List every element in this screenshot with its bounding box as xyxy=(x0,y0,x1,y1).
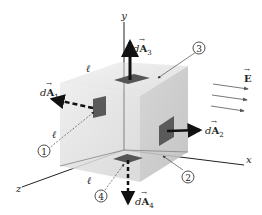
diagram-svg: 1 3 2 4 y x z ℓ ℓ ℓ dA3 → dA1 → dA2 → dA… xyxy=(0,0,262,215)
face-3-label: 3 xyxy=(196,44,202,54)
svg-text:→: → xyxy=(46,80,52,88)
x-axis-label: x xyxy=(246,154,252,165)
dA2-arrow xyxy=(167,130,200,131)
svg-text:→: → xyxy=(139,36,145,44)
edge-length-left: ℓ xyxy=(52,129,56,140)
face-1-label: 1 xyxy=(41,147,47,157)
face-4-label: 4 xyxy=(98,192,104,202)
edge-length-top: ℓ xyxy=(86,63,90,74)
face-2-label: 2 xyxy=(185,173,191,183)
electric-field-lines xyxy=(211,84,248,111)
cube-flux-diagram: 1 3 2 4 y x z ℓ ℓ ℓ dA3 → dA1 → dA2 → dA… xyxy=(0,0,262,215)
edge-length-bottom: ℓ xyxy=(87,175,91,186)
svg-text:dA4: dA4 xyxy=(135,196,154,210)
patch-face-1 xyxy=(93,96,106,118)
dA3-label: dA3 → xyxy=(133,36,152,57)
dA1-label: dA1 → xyxy=(40,80,59,101)
svg-text:→: → xyxy=(211,118,217,126)
svg-text:dA2: dA2 xyxy=(205,125,224,139)
svg-text:→: → xyxy=(244,66,250,74)
z-axis-label: z xyxy=(15,183,22,194)
dA4-label: dA4 → xyxy=(135,189,154,210)
svg-text:dA3: dA3 xyxy=(133,43,152,57)
svg-text:E: E xyxy=(244,73,252,84)
dA2-label: dA2 → xyxy=(205,118,224,139)
svg-text:→: → xyxy=(141,189,147,197)
y-axis-label: y xyxy=(120,10,127,21)
svg-text:dA1: dA1 xyxy=(40,87,59,101)
E-field-label: E → xyxy=(244,66,252,84)
